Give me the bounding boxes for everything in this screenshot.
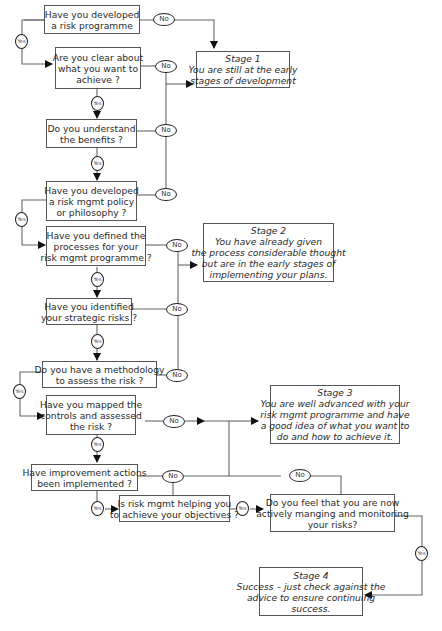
box-text: Have you developed [45,9,139,20]
no-label: No [155,60,177,73]
flowchart: Have you developed a risk programme Are … [0,0,442,631]
yes-label: Yes [13,384,26,399]
no-label: No [153,13,175,26]
yes-label: Yes [15,34,28,49]
yes-label: Yes [91,501,104,516]
stage-text: stages of development [190,75,296,86]
no-label: No [162,470,184,483]
stage-text: but are in the early stages of [202,258,336,269]
yes-label: Yes [91,334,104,349]
box-text: risk mgmt programme ? [40,252,151,263]
box-text: a risk mgmt policy [49,196,134,207]
no-label: No [166,239,188,252]
stage-text: Success – just check against the [237,581,386,592]
stage-title: Stage 2 [251,225,286,236]
no-label: No [166,369,188,382]
yes-label: Yes [236,501,249,516]
box-text: the benefits ? [60,134,123,145]
stage-text: success. [292,603,331,614]
yes-label: Yes [91,96,104,111]
box-text: Is risk mgmt helping you [118,498,232,509]
yes-label: Yes [91,156,104,171]
box-text: what you want to [58,63,138,74]
question-achieve-objectives: Is risk mgmt helping you to achieve your… [119,495,230,522]
yes-label: Yes [91,272,104,287]
stage-text: You are still at the early [188,64,297,75]
question-understand-benefits: Do you understand the benefits ? [46,119,137,148]
yes-label: Yes [91,437,104,452]
stage-text: You are well advanced with your [260,398,409,409]
box-text: achieve ? [76,74,120,85]
question-clear-about-goals: Are you clear about what you want to ach… [55,47,141,89]
box-text: Do you understand [48,123,136,134]
box-text: your risks? [308,519,358,530]
no-label: No [155,124,177,137]
question-developed-risk-programme: Have you developed a risk programme [44,5,140,34]
box-text: a risk programme [51,20,133,31]
box-text: controls and assessed [40,410,142,421]
stage-text: the process considerable thought [191,247,345,258]
box-text: Have you identified [44,301,134,312]
question-mapped-controls: Have you mapped the controls and assesse… [46,395,136,435]
stage-1-box: Stage 1 You are still at the early stage… [196,51,290,88]
question-defined-processes: Have you defined the processes for your … [46,226,146,266]
stage-text: a good idea of what you want to [261,420,410,431]
stage-4-box: Stage 4 Success – just check against the… [259,567,363,616]
box-text: to achieve your objectives ? [110,509,239,520]
box-text: or philosophy ? [57,207,127,218]
question-methodology: Do you have a methodology to assess the … [42,361,157,388]
box-text: to assess the risk ? [56,375,144,386]
stage-text: advice to ensure continuing [247,592,375,603]
yes-label: Yes [15,212,28,227]
stage-text: You have already given [215,236,322,247]
stage-text: risk mgmt programme and have [260,409,409,420]
question-improvement-actions: Have improvement actions been implemente… [31,464,138,491]
stage-title: Stage 3 [317,387,352,398]
stage-2-box: Stage 2 You have already given the proce… [203,223,334,282]
stage-3-box: Stage 3 You are well advanced with your … [270,385,400,444]
stage-text: implementing your plans. [210,269,328,280]
box-text: been implemented ? [37,478,132,489]
question-actively-managing: Do you feel that you are now actively ma… [270,494,395,532]
no-label: No [155,188,177,201]
question-risk-policy: Have you developed a risk mgmt policy or… [46,181,137,221]
stage-title: Stage 4 [293,570,328,581]
yes-label: Yes [415,546,428,561]
box-text: Have you developed [44,185,138,196]
box-text: processes for your [54,241,139,252]
question-strategic-risks: Have you identified your strategic risks… [46,298,132,325]
box-text: Have you mapped the [40,399,142,410]
no-label: No [163,415,185,428]
box-text: your strategic risks ? [41,312,137,323]
box-text: Are you clear about [53,52,143,63]
no-label: No [166,303,188,316]
stage-text: do and how to achieve it. [277,431,393,442]
box-text: the risk ? [70,421,112,432]
no-label: No [289,469,311,482]
box-text: actively manging and monitoring [256,508,409,519]
stage-title: Stage 1 [225,53,260,64]
box-text: Have you defined the [47,230,146,241]
box-text: Have improvement actions [22,467,146,478]
box-text: Do you have a methodology [35,364,165,375]
box-text: Do you feel that you are now [266,497,400,508]
